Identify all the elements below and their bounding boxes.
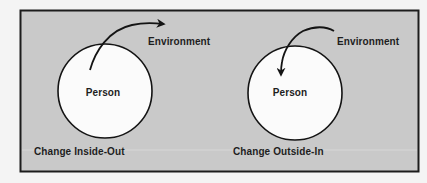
environment-label: Environment [337, 36, 400, 47]
person-label: Person [86, 87, 121, 98]
caption-inside-out: Change Inside-Out [34, 146, 125, 157]
caption-outside-in: Change Outside-In [233, 146, 324, 157]
person-label: Person [273, 87, 308, 98]
person-environment-diagram: Person Environment Change Inside-Out Per… [0, 0, 427, 183]
environment-label: Environment [148, 36, 211, 47]
